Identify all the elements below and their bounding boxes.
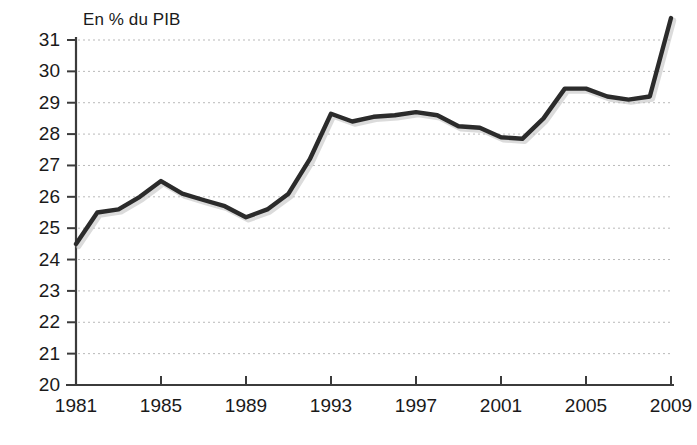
- y-axis-tick-label: 23: [26, 280, 60, 302]
- x-axis-tick-label: 2005: [551, 395, 621, 417]
- y-axis-tick-label: 29: [26, 92, 60, 114]
- y-axis-tick-label: 24: [26, 249, 60, 271]
- y-axis-tick-label: 27: [26, 154, 60, 176]
- y-axis-tick-label: 30: [26, 60, 60, 82]
- x-axis-ticks: [76, 376, 671, 385]
- x-axis-tick-label: 1989: [211, 395, 281, 417]
- x-axis-tick-label: 1985: [126, 395, 196, 417]
- y-axis-ticks: [67, 40, 76, 385]
- y-axis-tick-label: 25: [26, 217, 60, 239]
- x-axis-tick-label: 2001: [466, 395, 536, 417]
- chart-container: En % du PIB 313029282726252423222120 198…: [0, 0, 697, 445]
- y-axis-tick-label: 28: [26, 123, 60, 145]
- x-axis-tick-label: 2009: [636, 395, 697, 417]
- y-axis-tick-label: 21: [26, 343, 60, 365]
- y-axis-tick-label: 26: [26, 186, 60, 208]
- x-axis-tick-label: 1993: [296, 395, 366, 417]
- y-axis-tick-label: 22: [26, 311, 60, 333]
- data-series-line: [76, 18, 674, 246]
- x-axis-tick-label: 1997: [381, 395, 451, 417]
- line-chart-plot: [0, 0, 697, 445]
- x-axis-tick-label: 1981: [41, 395, 111, 417]
- y-axis-tick-label: 31: [26, 29, 60, 51]
- y-axis-tick-label: 20: [26, 374, 60, 396]
